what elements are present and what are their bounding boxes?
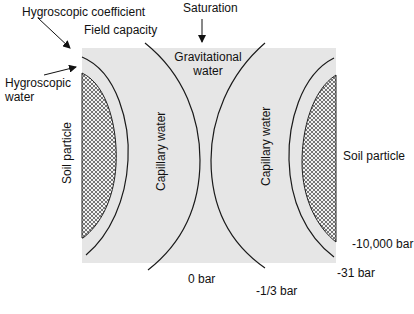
hygroscopic-water-line2: water — [5, 90, 71, 104]
hygroscopic-water-line1: Hygroscopic — [5, 76, 71, 90]
gravitational-water-label: Gravitational water — [168, 50, 248, 78]
capillary-water-right-label: Capillary water — [259, 107, 273, 186]
potential-third-bar: -1/3 bar — [256, 284, 297, 298]
potential-10000-bar: -10,000 bar — [352, 237, 413, 251]
potential-0-bar: 0 bar — [188, 272, 215, 286]
hygroscopic-water-label: Hygroscopic water — [5, 76, 71, 104]
field-capacity-label: Field capacity — [84, 23, 157, 37]
hygroscopic-coefficient-label: Hygroscopic coefficient — [22, 5, 145, 19]
saturation-label: Saturation — [183, 1, 238, 15]
hygroscopic-water-arrow — [44, 67, 76, 75]
gravitational-water-line1: Gravitational — [168, 50, 248, 64]
hygroscopic-coefficient-arrow — [38, 18, 70, 48]
soil-particle-left-label: Soil particle — [60, 122, 74, 184]
potential-31-bar: -31 bar — [337, 266, 375, 280]
soil-water-diagram: Hygroscopic coefficient Field capacity S… — [0, 0, 414, 314]
capillary-water-left-label: Capillary water — [154, 112, 168, 191]
soil-particle-right-label: Soil particle — [343, 149, 405, 163]
water-zone-background — [82, 48, 336, 263]
gravitational-water-line2: water — [168, 64, 248, 78]
